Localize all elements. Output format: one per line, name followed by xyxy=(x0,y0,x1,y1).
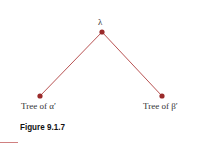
edge-right xyxy=(102,32,162,96)
root-node xyxy=(99,29,104,34)
right-node xyxy=(159,93,164,98)
figure-caption: Figure 9.1.7 xyxy=(20,121,65,132)
edge-left xyxy=(40,32,102,96)
left-node xyxy=(37,93,42,98)
root-label: λ xyxy=(98,17,102,27)
left-child-label: Tree of α′ xyxy=(21,101,56,111)
right-child-label: Tree of β′ xyxy=(143,101,178,111)
divider-rule xyxy=(0,142,18,143)
